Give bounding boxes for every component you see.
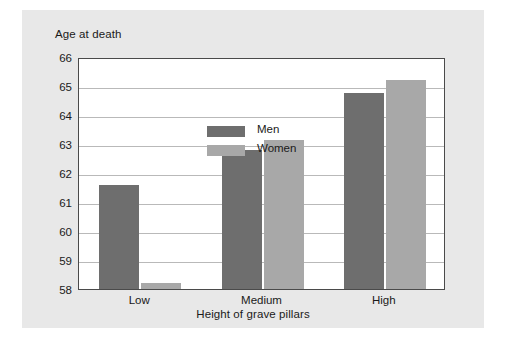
chart-title: Age at death [55, 28, 121, 40]
y-axis-tick-label: 64 [38, 110, 72, 122]
legend-swatch-men-icon [207, 126, 245, 137]
legend-label-men: Men [257, 123, 279, 135]
legend-item-women: Women [207, 142, 337, 161]
bar-women-medium [264, 140, 304, 289]
bar-men-low [99, 185, 139, 289]
x-axis-title: Height of grave pillars [0, 308, 506, 320]
y-axis-tick-labels: 585960616263646566 [36, 58, 72, 290]
y-axis-tick-label: 59 [38, 255, 72, 267]
bar-men-medium [222, 150, 262, 289]
x-axis-tick-label: High [372, 294, 396, 306]
legend-label-women: Women [257, 142, 296, 154]
legend-item-men: Men [207, 123, 337, 142]
x-axis-tick-label: Medium [241, 294, 282, 306]
y-axis-tick-label: 62 [38, 168, 72, 180]
bar-women-high [386, 80, 426, 289]
plot-area: Men Women [78, 58, 445, 290]
y-axis-tick-label: 60 [38, 226, 72, 238]
figure: Age at death 585960616263646566 Men Wome… [0, 0, 506, 346]
y-axis-tick-label: 63 [38, 139, 72, 151]
y-axis-tick-label: 66 [38, 52, 72, 64]
chart-legend: Men Women [207, 123, 337, 161]
bar-women-low [141, 283, 181, 289]
y-axis-tick-label: 61 [38, 197, 72, 209]
y-axis-tick-label: 58 [38, 284, 72, 296]
x-axis-tick-label: Low [129, 294, 150, 306]
bar-men-high [344, 93, 384, 289]
legend-swatch-women-icon [207, 145, 245, 156]
y-axis-tick-label: 65 [38, 81, 72, 93]
